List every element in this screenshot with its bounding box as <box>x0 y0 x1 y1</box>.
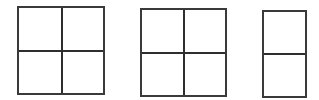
grid-figure-1x2 <box>262 10 307 98</box>
horizontal-divider <box>264 53 305 55</box>
grid-figure-2x2-first <box>17 6 105 95</box>
horizontal-divider <box>142 52 225 54</box>
horizontal-divider <box>19 50 103 52</box>
grid-figure-2x2-second <box>140 8 227 97</box>
